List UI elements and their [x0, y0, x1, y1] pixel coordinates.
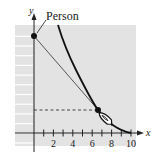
diagram: 246810 y x Person	[0, 0, 154, 160]
person-point	[31, 33, 37, 39]
x-tick-label: 6	[90, 138, 95, 149]
x-tick-label: 4	[70, 138, 75, 149]
x-axis-label: x	[145, 127, 151, 138]
person-label: Person	[46, 9, 79, 23]
x-axis-arrow-icon	[137, 131, 144, 136]
x-tick-label: 8	[109, 138, 114, 149]
y-axis-label: y	[28, 5, 34, 16]
x-tick-label: 2	[51, 138, 56, 149]
tangency-point	[95, 107, 101, 113]
x-tick-label: 10	[126, 138, 136, 149]
